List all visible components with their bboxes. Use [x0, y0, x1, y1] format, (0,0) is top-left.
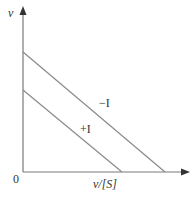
origin-label: 0 — [13, 172, 19, 186]
label-plus-i: +I — [80, 122, 91, 136]
y-axis-label: v — [8, 6, 14, 20]
eadie-hofstee-plot: v 0 v/[S] −I +I — [0, 0, 196, 202]
line-minus-inhibitor — [23, 52, 165, 172]
x-axis-label: v/[S] — [93, 177, 117, 191]
label-minus-i: −I — [99, 96, 110, 110]
x-axis-arrow-icon — [181, 169, 190, 176]
y-axis-arrow-icon — [20, 6, 27, 15]
